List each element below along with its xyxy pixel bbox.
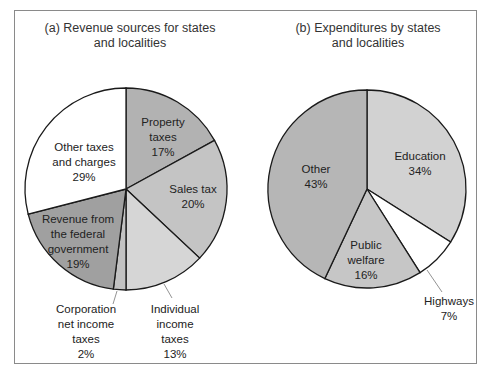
- label-line: 17%: [128, 145, 198, 160]
- label-line: Sales tax: [158, 182, 228, 197]
- label-line: Highways: [414, 294, 484, 309]
- label-other-expenditures: Other 43%: [286, 162, 346, 192]
- label-line: Revenue from: [38, 212, 118, 227]
- label-line: 7%: [414, 309, 484, 324]
- label-line: 34%: [385, 164, 455, 179]
- label-line: welfare: [336, 253, 396, 268]
- label-line: 20%: [158, 197, 228, 212]
- label-line: net income: [48, 317, 124, 332]
- label-line: 19%: [38, 257, 118, 272]
- label-highways: Highways 7%: [414, 294, 484, 324]
- label-line: Other: [286, 162, 346, 177]
- label-line: taxes: [48, 332, 124, 347]
- label-line: Corporation: [48, 302, 124, 317]
- label-line: 16%: [336, 268, 396, 283]
- label-line: income: [140, 317, 210, 332]
- label-education: Education 34%: [385, 149, 455, 179]
- label-line: Education: [385, 149, 455, 164]
- label-other-taxes-charges: Other taxes and charges 29%: [44, 140, 124, 185]
- label-sales-tax: Sales tax 20%: [158, 182, 228, 212]
- label-line: 29%: [44, 170, 124, 185]
- leader-line-individual: [164, 284, 172, 298]
- label-line: 2%: [48, 347, 124, 362]
- label-line: 13%: [140, 347, 210, 362]
- label-line: Other taxes: [44, 140, 124, 155]
- label-property-taxes: Property taxes 17%: [128, 115, 198, 160]
- leader-line-highways: [427, 270, 442, 292]
- label-corporation-net-income-taxes: Corporation net income taxes 2%: [48, 302, 124, 362]
- label-line: Property: [128, 115, 198, 130]
- label-line: the federal: [38, 227, 118, 242]
- label-individual-income-taxes: Individual income taxes 13%: [140, 302, 210, 362]
- label-line: taxes: [128, 130, 198, 145]
- label-line: government: [38, 242, 118, 257]
- label-line: 43%: [286, 177, 346, 192]
- label-line: and charges: [44, 155, 124, 170]
- label-line: Individual: [140, 302, 210, 317]
- label-public-welfare: Public welfare 16%: [336, 238, 396, 283]
- label-line: taxes: [140, 332, 210, 347]
- label-federal-government: Revenue from the federal government 19%: [38, 212, 118, 272]
- label-line: Public: [336, 238, 396, 253]
